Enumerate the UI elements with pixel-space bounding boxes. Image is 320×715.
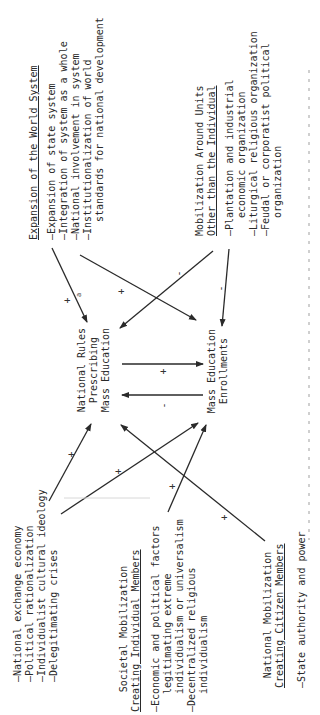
faded-caption [308, 70, 310, 540]
enrollments-line-1: Mass Education [206, 326, 218, 416]
arrow-exchange-to-enrollments [61, 423, 198, 514]
diagram-canvas: + a + - - + - + + + + Expansion of the W… [0, 0, 320, 715]
sign-rules-enrollments: + [158, 368, 169, 374]
arrow-units-to-rules [120, 251, 213, 328]
world-system-item: —Institutionalization of world [82, 17, 94, 240]
node-societal: Societal Mobilization Creating Individua… [118, 519, 210, 712]
arrow-world-to-rules [52, 248, 87, 322]
enrollments-line-2: Enrollments [218, 326, 230, 416]
other-units-item: organization [272, 31, 284, 236]
sign-units-enrollments: - [215, 285, 226, 291]
exchange-item: —Delegitimating crises [48, 489, 60, 682]
national-rules-line-3: Mass Education [100, 322, 112, 418]
sign-enrollments-rules: - [158, 402, 169, 408]
sign-exchange-enrollments: + [113, 468, 124, 474]
other-units-item: —Plantation and industrial [224, 31, 236, 236]
national-mob-title-2: Creating Citizen Members [274, 531, 286, 688]
other-units-item: —Liturgical religious organization [248, 31, 260, 236]
other-units-item: economic organization [236, 31, 248, 236]
other-units-title-2: Other than the Individual [206, 31, 218, 236]
national-rules-line-1: National Rules [76, 322, 88, 418]
other-units-item: —Feudal or corporatist political [260, 31, 272, 236]
world-system-item: —National involvement in system [70, 17, 82, 240]
societal-item: —Economic and political factors [150, 519, 162, 712]
national-mob-title-1: National Mobilization [262, 542, 274, 688]
national-rules-line-2: Prescribing [88, 322, 100, 418]
sign-world-enrollments: + [116, 288, 127, 294]
societal-title-1: Societal Mobilization [118, 546, 130, 712]
societal-item: —Decentralized religious [186, 519, 198, 712]
national-mob-item: —State authority and power [296, 531, 308, 688]
societal-item: individualism or universalism [174, 519, 186, 712]
societal-item: individualism [198, 519, 210, 712]
sign-nationalmob-rules: + [219, 514, 230, 520]
world-system-title: Expansion of the World System [28, 17, 40, 240]
world-system-item: —Integration of system as a whole [58, 17, 70, 240]
sign-footnote-a: a [75, 293, 83, 297]
other-units-title-1: Mobilization Around Units [194, 31, 206, 236]
sign-units-rules: - [173, 270, 184, 276]
exchange-item: —Individualist cultural ideology [36, 489, 48, 682]
exchange-item: —National exchange economy [12, 489, 24, 682]
node-national-rules: National Rules Prescribing Mass Educatio… [76, 322, 112, 418]
world-system-item: standards for national development [94, 17, 106, 240]
node-national-mobilization: National Mobilization Creating Citizen M… [262, 531, 308, 688]
societal-title-2: Creating Individual Members [130, 519, 142, 712]
sign-societal-enrollments: + [167, 483, 178, 489]
arrow-world-to-enrollments [80, 255, 196, 320]
world-system-item: —Expansion of state system [46, 17, 58, 240]
sign-world-rules: + [62, 297, 73, 303]
arrow-societal-to-enrollments [168, 425, 206, 512]
node-enrollments: Mass Education Enrollments [206, 326, 230, 416]
exchange-item: —Political rationalization [24, 489, 36, 682]
node-other-units: Mobilization Around Units Other than the… [194, 31, 284, 236]
node-world-system: Expansion of the World System —Expansion… [28, 17, 106, 240]
sign-exchange-rules: + [66, 451, 77, 457]
societal-item: legitimating extreme [162, 519, 174, 712]
node-exchange: —National exchange economy —Political ra… [12, 489, 60, 682]
